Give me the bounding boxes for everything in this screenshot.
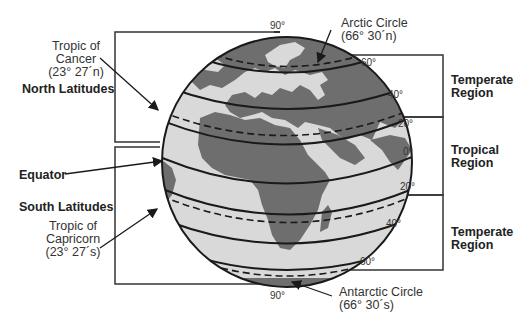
equator-degree: 0°: [403, 146, 413, 157]
globe: [150, 30, 430, 300]
tropic-of-capricorn-label: Tropic of Capricorn (23° 27´s): [42, 220, 104, 259]
tropic-of-capricorn-arrow: [100, 209, 157, 248]
south-pole-degree: 90°: [270, 290, 285, 301]
tropic-of-cancer-label: Tropic of Cancer (23° 27´n): [46, 40, 106, 79]
latitude-60s-degree: 60°: [360, 256, 375, 267]
south-latitudes-label: South Latitudes: [19, 201, 113, 214]
temperate-north-region-label: Temperate Region: [451, 74, 513, 100]
antarctic-circle-coords: (66° 30´s): [339, 299, 423, 312]
equator-arrow: [65, 161, 162, 174]
latitude-40s-degree: 40°: [386, 218, 401, 229]
latitude-diagram: Tropic of Cancer (23° 27´n) North Latitu…: [0, 0, 530, 325]
equator-label: Equator: [19, 169, 66, 182]
north-latitudes-label: North Latitudes: [22, 83, 114, 96]
temperate-north-line2: Region: [451, 87, 513, 100]
temperate-south-line2: Region: [451, 239, 513, 252]
antarctic-circle-label: Antarctic Circle (66° 30´s): [339, 286, 423, 312]
latitude-20n-degree: 20°: [398, 118, 413, 129]
latitude-20s-degree: 20°: [400, 181, 415, 192]
latitude-60n-degree: 60°: [361, 57, 376, 68]
arctic-circle-coords: (66° 30´n): [341, 30, 408, 43]
tropic-of-capricorn-coords: (23° 27´s): [42, 246, 104, 259]
tropic-of-cancer-coords: (23° 27´n): [46, 66, 106, 79]
tropical-region-label: Tropical Region: [451, 144, 499, 170]
arctic-circle-label: Arctic Circle (66° 30´n): [341, 17, 408, 43]
temperate-south-region-label: Temperate Region: [451, 226, 513, 252]
north-pole-degree: 90°: [270, 20, 285, 31]
latitude-40n-degree: 40°: [388, 89, 403, 100]
tropical-line2: Region: [451, 157, 499, 170]
